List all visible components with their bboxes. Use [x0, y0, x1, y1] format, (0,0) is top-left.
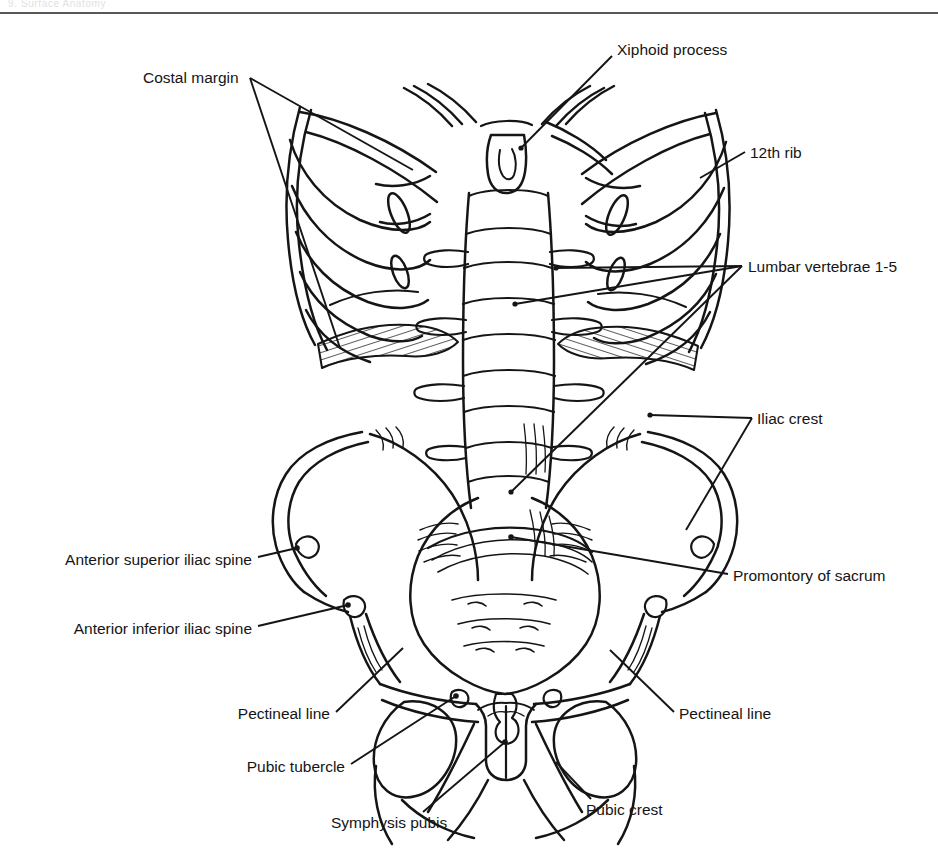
upper-ribs-and-sternum: [404, 84, 614, 174]
leader-iliac-crest-a: [650, 415, 752, 418]
label-pectineal-line-left: Pectineal line: [238, 706, 330, 722]
label-xiphoid-process: Xiphoid process: [617, 42, 727, 58]
leader-pectineal-left: [336, 648, 403, 712]
pubic-symphysis-region: [448, 690, 564, 840]
label-promontory-of-sacrum: Promontory of sacrum: [733, 568, 885, 584]
label-pectineal-line-right: Pectineal line: [679, 706, 771, 722]
label-pubic-tubercle: Pubic tubercle: [247, 759, 345, 775]
label-iliac-crest: Iliac crest: [757, 411, 822, 427]
right-hip-bone: [532, 427, 737, 844]
leader-pubic-tubercle: [351, 696, 456, 764]
label-symphysis-pubis: Symphysis pubis: [331, 815, 447, 831]
leader-pubic-crest: [556, 762, 591, 799]
leader-xiphoid-process: [521, 56, 612, 148]
xiphoid-process-bone: [481, 121, 532, 193]
right-rib-cage: [558, 110, 730, 370]
leader-costal-margin-a: [250, 78, 413, 170]
label-pubic-crest: Pubic crest: [586, 802, 663, 818]
leader-lumbar-c: [511, 266, 742, 492]
bone-outlines: [273, 84, 737, 844]
label-anterior-inferior-iliac-spine: Anterior inferior iliac spine: [74, 621, 252, 637]
left-hip-bone: [273, 427, 478, 844]
figure-page: 9. Surface Anatomy: [0, 0, 938, 860]
label-costal-margin: Costal margin: [143, 70, 239, 86]
label-lumbar-vertebrae: Lumbar vertebrae 1-5: [748, 259, 897, 275]
leader-aiis: [258, 605, 348, 626]
label-12th-rib: 12th rib: [750, 145, 802, 161]
leader-12th-rib: [700, 152, 745, 178]
leader-iliac-crest-b: [686, 418, 752, 530]
label-anterior-superior-iliac-spine: Anterior superior iliac spine: [65, 552, 252, 568]
skeleton-anatomy-illustration: [0, 0, 938, 860]
